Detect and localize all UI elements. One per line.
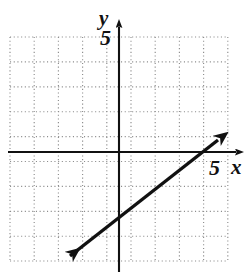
graph-screenshot: y 5 5 x <box>0 0 248 279</box>
plotted-line <box>70 140 218 256</box>
x-axis-label: x <box>231 157 242 178</box>
line-segment <box>70 140 218 256</box>
x-axis-tick-label-5: 5 <box>209 157 220 179</box>
y-axis-tick-label-5: 5 <box>100 27 111 49</box>
coordinate-plane-figure <box>0 0 248 279</box>
axes <box>8 27 236 272</box>
